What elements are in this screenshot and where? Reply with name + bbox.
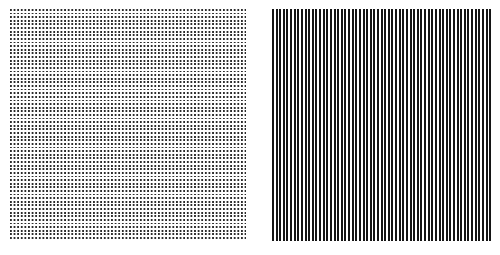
- dot-grid-panel: [10, 9, 246, 239]
- figure-canvas: [0, 0, 500, 255]
- line-grating-panel: [272, 9, 491, 241]
